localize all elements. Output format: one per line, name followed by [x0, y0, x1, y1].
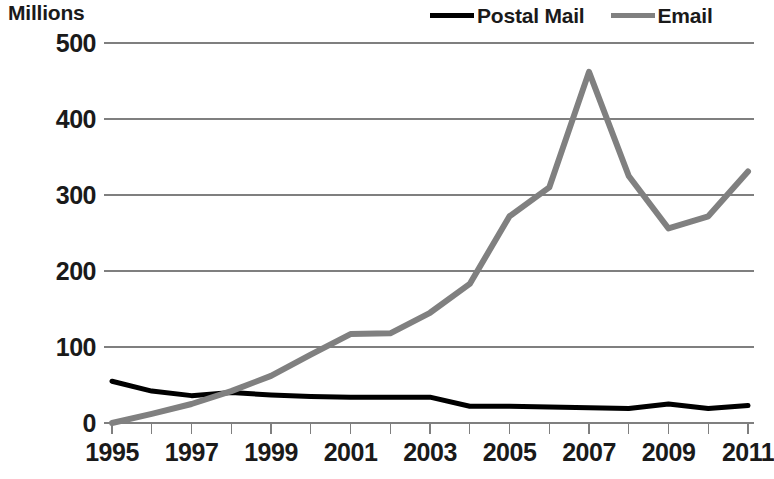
y-tick-label: 0 — [0, 411, 96, 436]
x-tick-label: 2009 — [642, 440, 696, 465]
x-tick-label: 1995 — [85, 440, 139, 465]
gridlines — [104, 43, 754, 423]
x-tick-label: 1997 — [165, 440, 219, 465]
x-tick-label: 1999 — [244, 440, 298, 465]
legend-swatch-email — [611, 13, 655, 18]
plot-area — [104, 38, 754, 428]
plot-svg — [104, 38, 754, 428]
x-tick-label: 2005 — [483, 440, 537, 465]
x-axis-tick-labels: 199519971999200120032005200720092011 — [0, 440, 767, 476]
series-line-email — [112, 72, 748, 423]
y-tick-label: 100 — [0, 335, 96, 360]
y-tick-label: 500 — [0, 31, 96, 56]
legend-item-email: Email — [611, 5, 713, 26]
x-tick-label: 2011 — [722, 440, 774, 465]
series-line-postal-mail — [112, 381, 748, 408]
y-tick-label: 300 — [0, 183, 96, 208]
legend-label-postal-mail: Postal Mail — [477, 5, 585, 26]
y-tick-label: 200 — [0, 259, 96, 284]
y-tick-label: 400 — [0, 107, 96, 132]
legend-item-postal-mail: Postal Mail — [430, 5, 585, 26]
legend-swatch-postal-mail — [430, 13, 474, 18]
series-lines — [112, 72, 748, 423]
chart-legend: Postal Mail Email — [430, 2, 767, 28]
x-axis-ticks — [112, 423, 748, 434]
x-tick-label: 2007 — [562, 440, 616, 465]
x-tick-label: 2001 — [324, 440, 378, 465]
legend-label-email: Email — [658, 5, 713, 26]
x-tick-label: 2003 — [403, 440, 457, 465]
y-axis-tick-labels: 0100200300400500 — [0, 0, 96, 479]
